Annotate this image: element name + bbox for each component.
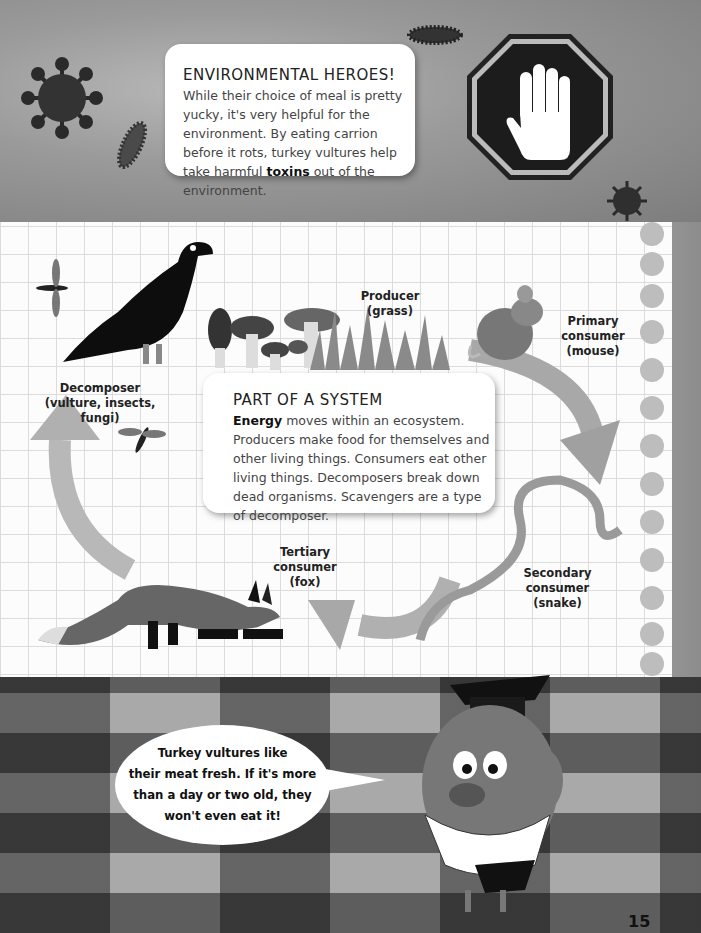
part-of-system-body: Energy moves within an ecosystem. Produc… [233,411,495,525]
insect-icon [30,258,76,318]
vulture-image [58,232,218,372]
part-of-system-box: PART OF A SYSTEM Energy moves within an … [203,373,495,513]
speech-bubble-text: Turkey vultures like their meat fresh. I… [125,742,320,826]
tablecloth-background [0,677,701,933]
label-secondary-consumer: Secondaryconsumer(snake) [520,566,595,611]
label-decomposer: Decomposer(vulture, insects,fungi) [40,381,160,426]
speech-bubble-tail [320,768,385,792]
part-of-system-title: PART OF A SYSTEM [233,391,495,409]
mascot-character [385,665,575,925]
fox-image [18,545,288,655]
label-primary-consumer: Primaryconsumer(mouse) [558,314,628,359]
page-number: 15 [628,912,650,931]
label-tertiary-consumer: Tertiaryconsumer(fox) [270,545,340,590]
mouse-image [465,284,555,364]
label-producer: Producer(grass) [350,289,430,319]
